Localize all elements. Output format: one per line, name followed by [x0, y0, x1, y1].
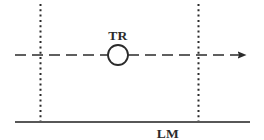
vehicle-circle: [108, 45, 128, 65]
lane-marking-label: LM: [157, 126, 179, 140]
diagram-svg: TR LM: [0, 0, 264, 140]
diagram-canvas: TR LM: [0, 0, 264, 140]
vehicle-label: TR: [108, 28, 127, 43]
